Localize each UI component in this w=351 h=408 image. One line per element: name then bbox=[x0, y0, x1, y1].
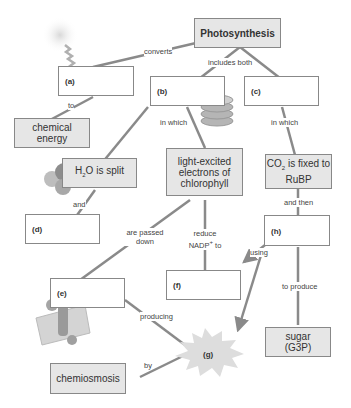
chemical-energy-node: chemical energy bbox=[14, 118, 90, 148]
chemiosmosis-node: chemiosmosis bbox=[50, 363, 126, 394]
blank-node-e[interactable]: (e) bbox=[50, 278, 125, 308]
chemical-energy-text: chemical energy bbox=[24, 122, 80, 144]
label-b: (b) bbox=[157, 87, 167, 96]
link-in-which-left: in which bbox=[160, 118, 187, 127]
sugar-text: sugar (G3P) bbox=[278, 331, 318, 353]
h2o-rest: O is split bbox=[86, 165, 124, 176]
chemiosmosis-text: chemiosmosis bbox=[56, 373, 119, 384]
blank-node-f[interactable]: (f) bbox=[166, 270, 241, 300]
light-excited-text: light-excited electrons of chlorophyll bbox=[170, 156, 240, 189]
label-d: (d) bbox=[32, 225, 42, 234]
light-excited-electrons-node: light-excited electrons of chlorophyll bbox=[166, 148, 243, 196]
link-using: using bbox=[250, 248, 268, 257]
co2-fixed-node: CO2 is fixed to RuBP bbox=[265, 154, 332, 189]
link-in-which-right: in which bbox=[271, 118, 298, 127]
burst-node-g[interactable]: (g) bbox=[203, 350, 213, 359]
co2-rest: is fixed to RuBP bbox=[285, 158, 330, 185]
link-to: to bbox=[68, 101, 74, 110]
link-and-then: and then bbox=[284, 198, 313, 207]
link-producing: producing bbox=[140, 312, 173, 321]
photosynthesis-node: Photosynthesis bbox=[194, 18, 281, 48]
label-e: (e) bbox=[57, 289, 67, 298]
co2-c: CO bbox=[267, 158, 282, 169]
link-are-passed-down: are passed down bbox=[123, 228, 167, 246]
label-c: (c) bbox=[251, 87, 261, 96]
h2o-split-node: H2O is split bbox=[62, 158, 137, 188]
link-includes-both: includes both bbox=[208, 58, 252, 67]
link-converts: converts bbox=[144, 47, 172, 56]
reduce-to: to bbox=[213, 241, 221, 250]
sugar-g3p-node: sugar (G3P) bbox=[265, 327, 331, 357]
label-h: (h) bbox=[271, 226, 281, 235]
blank-node-a[interactable]: (a) bbox=[58, 66, 134, 96]
link-reduce-nadp: reduce NADP+ to bbox=[183, 229, 227, 250]
blank-node-d[interactable]: (d) bbox=[25, 214, 100, 244]
link-by: by bbox=[144, 361, 152, 370]
blank-node-c[interactable]: (c) bbox=[244, 76, 319, 106]
sunlight-icon bbox=[42, 17, 78, 53]
link-and: and bbox=[73, 200, 86, 209]
photosynthesis-title: Photosynthesis bbox=[200, 28, 274, 39]
link-to-produce: to produce bbox=[282, 282, 317, 291]
co2-text: CO2 is fixed to RuBP bbox=[267, 158, 331, 185]
h2o-split-text: H2O is split bbox=[75, 165, 124, 181]
label-a: (a) bbox=[65, 77, 75, 86]
label-f: (f) bbox=[173, 281, 181, 290]
blank-node-h[interactable]: (h) bbox=[264, 215, 330, 246]
blank-node-b[interactable]: (b) bbox=[150, 76, 225, 106]
